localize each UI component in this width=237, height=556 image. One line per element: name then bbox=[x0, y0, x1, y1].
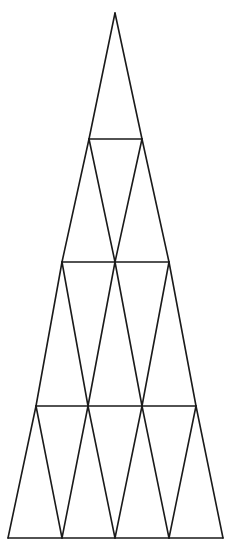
diagonal-edge bbox=[142, 406, 169, 538]
diagonal-edge bbox=[115, 262, 142, 406]
diagonal-edge bbox=[36, 262, 62, 406]
diagonal-edge bbox=[88, 262, 115, 406]
diagonal-edge bbox=[62, 139, 89, 262]
lattice-lines bbox=[8, 13, 223, 538]
diagonal-edge bbox=[89, 139, 115, 262]
diagonal-edge bbox=[115, 13, 142, 139]
diagonal-edge bbox=[36, 406, 62, 538]
diagonal-edge bbox=[115, 406, 142, 538]
diagonal-edge bbox=[142, 262, 169, 406]
diagonal-edge bbox=[169, 406, 196, 538]
diagonal-edge bbox=[115, 139, 142, 262]
diagonal-edge bbox=[89, 13, 115, 139]
diagonal-edge bbox=[142, 139, 169, 262]
diagonal-edge bbox=[8, 406, 36, 538]
diagonal-edge bbox=[88, 406, 115, 538]
triangle-lattice-diagram bbox=[0, 0, 237, 556]
diagonal-edge bbox=[62, 406, 88, 538]
diagonal-edge bbox=[169, 262, 196, 406]
diagonal-edge bbox=[62, 262, 88, 406]
diagonal-edge bbox=[196, 406, 223, 538]
